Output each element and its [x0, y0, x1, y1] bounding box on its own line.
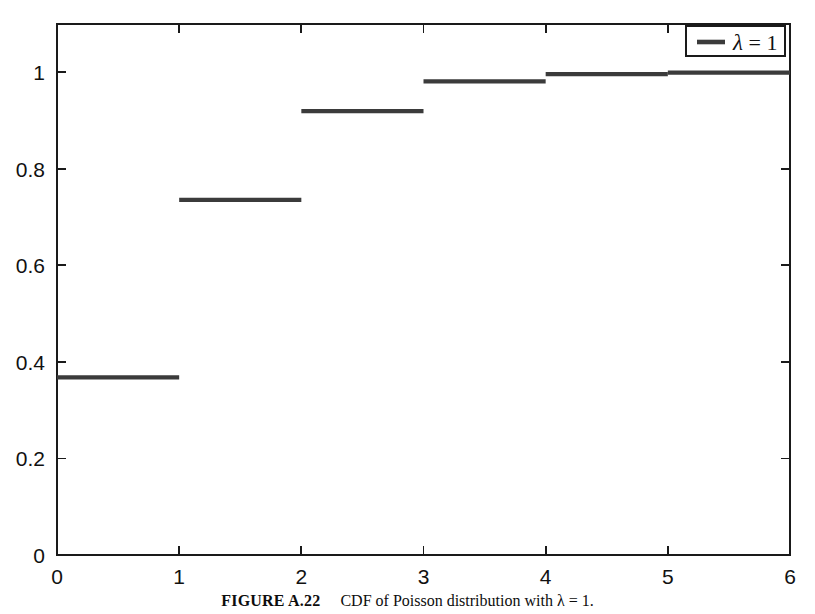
- y-tick-label: 0.6: [16, 254, 45, 277]
- x-tick-label: 6: [784, 565, 796, 588]
- caption-description: CDF of Poisson distribution with λ = 1.: [340, 592, 593, 609]
- x-tick-label: 4: [540, 565, 552, 588]
- x-tick-label: 3: [418, 565, 430, 588]
- x-tick-label: 2: [295, 565, 307, 588]
- x-axis-tick-labels: 0123456: [51, 565, 796, 588]
- figure-container: 00.20.40.60.81 0123456 λ = 1 FIGURE A.22…: [0, 0, 815, 614]
- tick-marks: [57, 24, 790, 555]
- y-tick-label: 0.4: [16, 351, 46, 374]
- cdf-step-chart: 00.20.40.60.81 0123456 λ = 1: [0, 0, 815, 592]
- x-tick-label: 1: [173, 565, 185, 588]
- y-tick-label: 0.8: [16, 158, 45, 181]
- x-tick-label: 0: [51, 565, 63, 588]
- y-tick-label: 1: [33, 61, 45, 84]
- data-series-group: [57, 73, 790, 378]
- caption-figure-number: FIGURE A.22: [221, 592, 320, 609]
- y-axis-tick-labels: 00.20.40.60.81: [16, 61, 46, 567]
- y-tick-label: 0.2: [16, 447, 45, 470]
- x-tick-label: 5: [662, 565, 674, 588]
- legend-entry-label: λ = 1: [732, 30, 777, 55]
- y-tick-label: 0: [33, 544, 45, 567]
- legend[interactable]: λ = 1: [686, 26, 785, 56]
- figure-caption: FIGURE A.22 CDF of Poisson distribution …: [0, 592, 815, 614]
- axes-frame: [57, 24, 790, 555]
